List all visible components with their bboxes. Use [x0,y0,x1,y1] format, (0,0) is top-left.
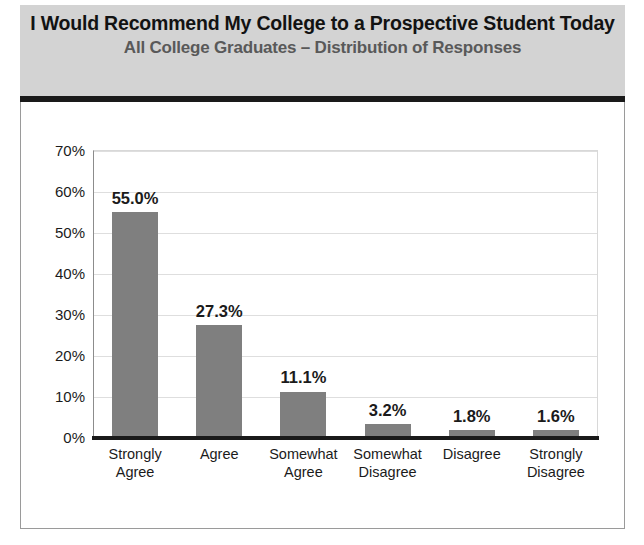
bar-value-label: 11.1% [280,369,326,386]
bar-value-label: 55.0% [112,190,159,207]
y-axis-tick-label: 30% [25,307,85,322]
chart-figure: I Would Recommend My College to a Prospe… [0,0,644,545]
y-axis-tick-label: 70% [25,143,85,158]
y-axis-tick-label: 20% [25,348,85,363]
bar-group[interactable]: 27.3% [177,150,261,437]
chart-subtitle: All College Graduates – Distribution of … [20,37,625,58]
y-axis-tick-label: 60% [25,184,85,199]
bar-group[interactable]: 11.1% [261,150,345,437]
bar-group[interactable]: 55.0% [93,150,177,437]
y-axis-tick-label: 50% [25,225,85,240]
bar-group[interactable]: 3.2% [346,150,430,437]
bar-group[interactable]: 1.8% [430,150,514,437]
x-axis-category-labels: Strongly AgreeAgreeSomewhat AgreeSomewha… [93,445,598,505]
y-axis-tick-label: 0% [25,430,85,445]
x-axis-category-label: Strongly Agree [93,445,177,481]
y-axis-tick-label: 40% [25,266,85,281]
bar-value-label: 1.8% [453,408,491,425]
x-axis-category-label: Agree [177,445,261,463]
x-axis-category-label: Somewhat Disagree [346,445,430,481]
x-axis-baseline [92,436,599,440]
bar[interactable] [280,392,326,438]
page-title: I Would Recommend My College to a Prospe… [20,12,625,34]
bar-group[interactable]: 1.6% [514,150,598,437]
bar-series: 55.0%27.3%11.1%3.2%1.8%1.6% [93,150,598,437]
x-axis-category-label: Somewhat Agree [261,445,345,481]
chart-header-band: I Would Recommend My College to a Prospe… [20,5,625,96]
y-axis-tick-label: 10% [25,389,85,404]
x-axis-category-label: Disagree [430,445,514,463]
x-axis-category-label: Strongly Disagree [514,445,598,481]
bar-value-label: 1.6% [537,408,575,425]
bar-value-label: 27.3% [196,303,243,320]
bar[interactable] [196,325,242,437]
bar-value-label: 3.2% [369,402,407,419]
y-axis-tick-labels: 0%10%20%30%40%50%60%70% [23,150,85,437]
bar[interactable] [112,212,158,438]
